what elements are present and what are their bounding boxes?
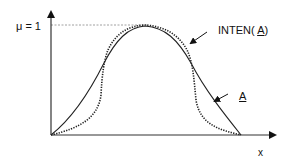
mu-one-label: μ = 1 xyxy=(16,21,41,32)
inten-a-pointer-arrow xyxy=(191,32,207,43)
a-curve-label: A xyxy=(239,91,246,102)
curve-a xyxy=(51,26,241,135)
x-axis-label: x xyxy=(258,148,263,158)
curve-inten-a xyxy=(51,25,241,135)
a-pointer-arrow xyxy=(215,94,228,101)
inten-a-label-suffix: ) xyxy=(264,24,268,36)
inten-a-label-prefix: INTEN( xyxy=(218,24,257,36)
inten-a-label: INTEN( A) xyxy=(218,25,268,36)
